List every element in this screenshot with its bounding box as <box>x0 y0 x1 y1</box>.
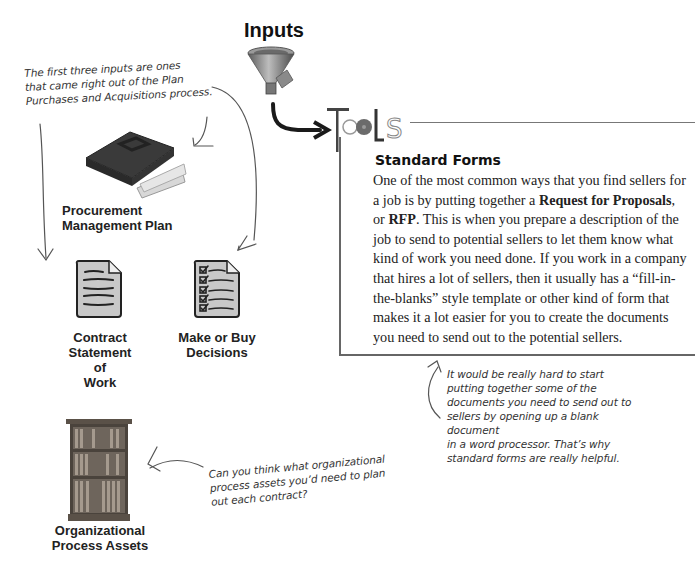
label-line: Decisions <box>177 345 257 360</box>
annotation-first-three-inputs: The first three inputs are ones that cam… <box>24 56 226 108</box>
annotation-line: It would be really hard to start <box>447 367 647 381</box>
standard-forms-body: One of the most common ways that you fin… <box>373 171 689 347</box>
contract-sow-label: Contract Statement of Work <box>62 330 138 390</box>
body-bold-rfp: RFP <box>388 211 416 227</box>
annotation-standard-forms-helpful: It would be really hard to start putting… <box>447 367 647 465</box>
label-line: Work <box>62 375 138 390</box>
briefcase-icon <box>82 128 192 200</box>
checklist-icon <box>191 258 243 320</box>
body-text: . This is when you prepare a description… <box>373 211 687 345</box>
annotation-line: in a word processor. That’s why <box>447 437 647 451</box>
procurement-management-plan-label: Procurement Management Plan <box>62 203 173 233</box>
inputs-title: Inputs <box>244 19 304 42</box>
annotation-line: putting together some of the <box>447 381 647 395</box>
svg-text:S: S <box>386 114 403 144</box>
tools-box-top-rule <box>410 122 695 123</box>
label-line: Process Assets <box>46 538 154 553</box>
standard-forms-title: Standard Forms <box>375 152 501 168</box>
make-or-buy-label: Make or Buy Decisions <box>177 330 257 360</box>
annotation-line: documents you need to send out to <box>447 395 647 409</box>
organizational-process-assets-label: Organizational Process Assets <box>46 523 154 553</box>
label-line: Management Plan <box>62 218 173 233</box>
label-line: Organizational <box>46 523 154 538</box>
funnel-icon <box>243 44 303 104</box>
body-bold-rfp-full: Request for Proposals <box>539 192 672 208</box>
annotation-line: sellers by opening up a blank document <box>447 409 647 437</box>
label-line: Make or Buy <box>177 330 257 345</box>
label-line: Procurement <box>62 203 173 218</box>
label-line: Statement of <box>62 345 138 375</box>
document-icon <box>73 258 125 320</box>
annotation-organizational-assets-question: Can you think what organizational proces… <box>208 448 426 509</box>
tools-box-bottom-border <box>339 354 695 356</box>
tools-box-left-border <box>339 137 341 356</box>
arrow-to-tools-icon <box>268 100 332 140</box>
annotation-line: standard forms are really helpful. <box>447 451 647 465</box>
bookcase-icon <box>66 419 132 521</box>
label-line: Contract <box>62 330 138 345</box>
